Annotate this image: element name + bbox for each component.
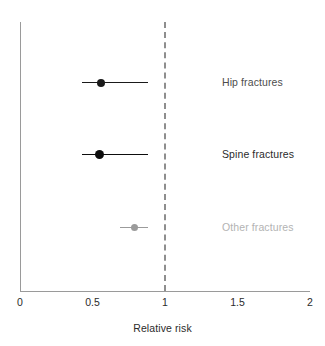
point-estimate-marker <box>95 150 104 159</box>
x-tick-label: 1 <box>162 296 168 308</box>
x-tick-label: 1.5 <box>230 296 245 308</box>
row-label-hip-fractures: Hip fractures <box>222 76 283 88</box>
x-axis-spine <box>20 291 310 292</box>
x-tick-label: 0.5 <box>85 296 100 308</box>
reference-line-at-1 <box>164 22 166 291</box>
y-axis-spine <box>20 22 21 291</box>
confidence-interval-line <box>82 82 147 83</box>
x-tick-label: 0 <box>17 296 23 308</box>
forest-plot-figure: Hip fracturesSpine fracturesOther fractu… <box>0 0 325 346</box>
point-estimate-marker <box>97 79 105 87</box>
point-estimate-marker <box>131 224 138 231</box>
plot-area: Hip fracturesSpine fracturesOther fractu… <box>0 0 325 346</box>
row-label-spine-fractures: Spine fractures <box>222 148 294 160</box>
x-tick-label: 2 <box>307 296 313 308</box>
confidence-interval-line <box>82 154 147 155</box>
x-axis-title: Relative risk <box>0 322 325 334</box>
row-label-other-fractures: Other fractures <box>222 221 294 233</box>
